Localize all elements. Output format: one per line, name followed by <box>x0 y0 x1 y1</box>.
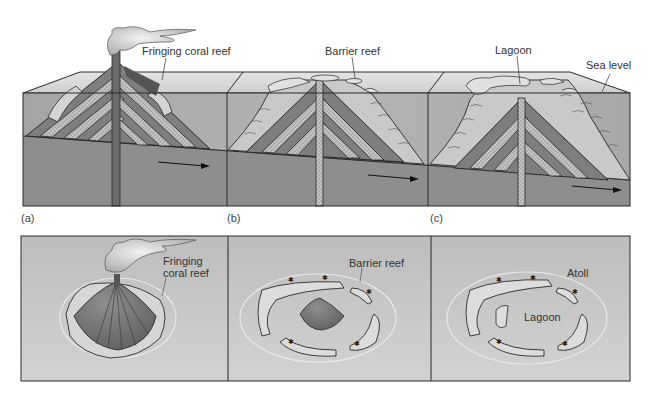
label-barrier-reef-plan-b: Barrier reef <box>349 258 404 269</box>
svg-text:✱: ✱ <box>366 288 372 295</box>
panel-tag-b: (b) <box>227 213 240 224</box>
svg-text:✱: ✱ <box>322 274 328 281</box>
label-lagoon-plan-c: Lagoon <box>524 312 561 323</box>
reef-formation-diagram: ✱✱✱✱✱ ✱✱✱✱✱ <box>0 0 653 398</box>
svg-text:✱: ✱ <box>530 274 536 281</box>
label-fringing-plan-a: Fringing coral reef <box>163 255 209 279</box>
svg-text:✱: ✱ <box>288 276 294 283</box>
label-coral-reef: coral reef <box>163 267 209 279</box>
label-sea-level: Sea level <box>586 60 631 71</box>
svg-text:✱: ✱ <box>496 338 502 345</box>
svg-text:✱: ✱ <box>288 338 294 345</box>
panel-tag-a: (a) <box>21 213 34 224</box>
label-barrier-reef-b: Barrier reef <box>325 46 380 57</box>
label-atoll: Atoll <box>567 268 588 279</box>
label-fringing-coral-reef-a: Fringing coral reef <box>142 46 231 57</box>
magma-conduit-a <box>112 50 120 206</box>
svg-text:✱: ✱ <box>496 276 502 283</box>
svg-text:✱: ✱ <box>572 288 578 295</box>
label-fringing: Fringing <box>163 255 203 267</box>
svg-text:✱: ✱ <box>562 340 568 347</box>
label-lagoon-c: Lagoon <box>495 45 532 56</box>
svg-text:✱: ✱ <box>354 340 360 347</box>
panel-tag-c: (c) <box>430 213 443 224</box>
